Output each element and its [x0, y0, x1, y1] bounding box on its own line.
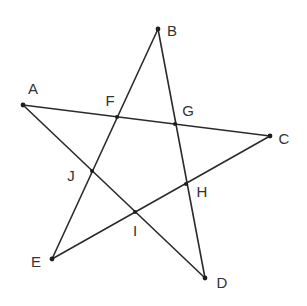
label-h: H [197, 183, 208, 200]
point-b [156, 27, 161, 32]
label-c: C [279, 130, 290, 147]
label-f: F [105, 92, 114, 109]
segment-AC [23, 105, 270, 136]
label-b: B [167, 22, 177, 39]
point-j [90, 169, 94, 173]
star-edges [23, 29, 270, 278]
point-f [115, 115, 119, 119]
point-i [133, 210, 137, 214]
segment-CE [52, 136, 270, 259]
point-a [21, 103, 26, 108]
point-d [203, 276, 208, 281]
point-e [50, 257, 55, 262]
point-c [268, 134, 273, 139]
points [21, 27, 273, 281]
label-e: E [31, 253, 41, 270]
label-g: G [182, 102, 194, 119]
label-d: D [217, 274, 228, 291]
pentagram-diagram: ABCDEFGHIJ [0, 0, 307, 306]
label-j: J [67, 167, 75, 184]
point-g [173, 122, 177, 126]
label-i: I [133, 222, 137, 239]
point-h [184, 182, 188, 186]
segment-EB [52, 29, 158, 259]
label-a: A [28, 80, 38, 97]
